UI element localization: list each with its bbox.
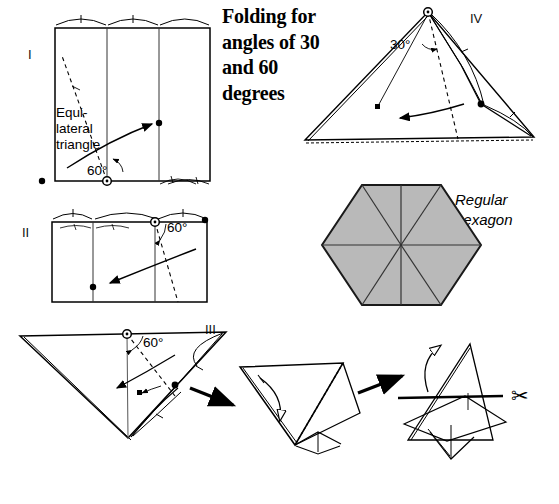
step-1-note-line-3: triangle bbox=[56, 137, 100, 152]
step-3-fold-motion-arrow bbox=[117, 355, 175, 388]
diagram-artwork: Equi- lateral triangle 60° bbox=[0, 0, 559, 504]
step-2-inner-tick-1 bbox=[74, 224, 76, 230]
step-1-note-line-2: lateral bbox=[56, 121, 93, 136]
progress-arrow-1 bbox=[190, 388, 233, 405]
step-1-note-line-1: Equi- bbox=[56, 105, 88, 120]
step-3-point-arrow bbox=[142, 386, 161, 393]
step-3c-bottom-triangle bbox=[430, 432, 474, 459]
step-2-pivot-center bbox=[154, 221, 157, 224]
step-3b-diagram bbox=[240, 363, 360, 454]
step-2-inner-tick-2 bbox=[112, 224, 114, 230]
step-3-edge-double-left bbox=[24, 337, 131, 440]
progress-arrow-2 bbox=[358, 376, 402, 393]
step-4-diagram: 30° bbox=[305, 8, 534, 143]
step-1-angle-label: 60° bbox=[87, 163, 107, 178]
step-3-pivot-center bbox=[126, 333, 129, 336]
step-2-fold-motion-arrow bbox=[110, 249, 196, 283]
step-3c-diagram bbox=[398, 344, 506, 459]
step-3-fold-tick bbox=[156, 414, 163, 418]
step-4-triangle-outline bbox=[305, 12, 534, 140]
step-4-arc-tick-1 bbox=[461, 49, 468, 52]
step-2-diagram: 60° bbox=[52, 209, 208, 302]
step-2-target-point bbox=[90, 284, 96, 290]
step-3-corner-point bbox=[172, 382, 179, 389]
step-4-angle-label: 30° bbox=[390, 37, 410, 52]
step-3b-fold-tick bbox=[258, 375, 264, 383]
step-3c-unfold-arrow bbox=[425, 346, 440, 392]
step-4-crease-dashed bbox=[428, 12, 458, 139]
step-1-diagram: Equi- lateral triangle 60° bbox=[39, 15, 210, 185]
step-4-angle-arc bbox=[422, 44, 437, 49]
step-3b-flap-right bbox=[295, 363, 360, 445]
step-3c-bottom-double bbox=[428, 429, 450, 456]
regular-hexagon-figure bbox=[322, 185, 481, 305]
step-1-target-point bbox=[156, 120, 162, 126]
step-2-angle-label: 60° bbox=[167, 220, 187, 235]
step-2-angle-arc bbox=[160, 224, 166, 240]
step-3-fold-tick-2 bbox=[196, 366, 203, 370]
step-1-pivot-center bbox=[106, 180, 109, 183]
step-3b-edge-double bbox=[243, 368, 297, 443]
step-3-target-square bbox=[137, 390, 142, 395]
step-2-corner-point bbox=[202, 217, 208, 223]
step-4-fold-motion-arrow bbox=[400, 104, 464, 118]
step-3-angle-label: 60° bbox=[143, 335, 163, 350]
step-3b-triangle-outline bbox=[240, 363, 343, 445]
scissors-icon: ✂ bbox=[511, 384, 529, 407]
step-3c-edge-double bbox=[411, 348, 470, 440]
step-4-pivot-center bbox=[427, 11, 430, 14]
step-4-base-dashed bbox=[306, 140, 533, 143]
step-3-diagram: 60° bbox=[20, 330, 226, 440]
step-1-corner-point bbox=[39, 178, 45, 184]
step-4-corner-point bbox=[478, 101, 485, 108]
step-4-edge-double-left bbox=[308, 16, 428, 141]
step-1-measure-arc-top-far-right bbox=[160, 19, 209, 25]
step-1-angle-arc bbox=[113, 159, 123, 172]
step-2-measure-arc-2 bbox=[95, 213, 157, 219]
step-4-target-square bbox=[375, 104, 380, 109]
cut-line bbox=[398, 396, 503, 398]
folding-diagram-figure: Folding for angles of 30 and 60 degrees … bbox=[0, 0, 559, 504]
step-3c-lower-flap bbox=[404, 396, 506, 441]
step-3-center-guide bbox=[127, 334, 128, 438]
